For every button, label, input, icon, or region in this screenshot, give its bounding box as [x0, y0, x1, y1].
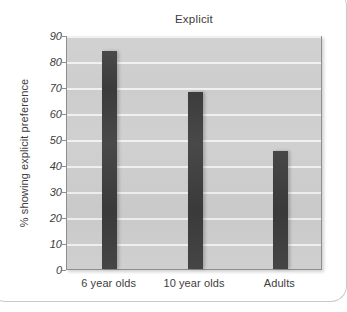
plot-area: [66, 36, 322, 270]
x-axis-category-label: 6 year olds: [81, 277, 136, 289]
bar: [273, 151, 288, 269]
y-axis-tick-label: 20: [22, 212, 62, 224]
y-axis-tick-label: 90: [22, 30, 62, 42]
y-axis-tick-label: 70: [22, 82, 62, 94]
y-axis-tick-label: 30: [22, 186, 62, 198]
y-axis-tick-column: 0102030405060708090: [18, 36, 62, 270]
x-axis-category-label: Adults: [264, 277, 295, 289]
gridline: [67, 36, 321, 38]
y-axis-tick-mark: [62, 270, 66, 271]
chart-title: Explicit: [66, 13, 322, 25]
y-axis-tick-label: 40: [22, 160, 62, 172]
y-axis-tick-label: 80: [22, 56, 62, 68]
bar: [188, 92, 203, 269]
y-axis-tick-label: 60: [22, 108, 62, 120]
bar-chart-figure: Explicit % showing explicit preference 0…: [0, 0, 347, 312]
y-axis-tick-label: 10: [22, 238, 62, 250]
x-axis-category-label: 10 year olds: [163, 277, 224, 289]
bar: [102, 51, 117, 269]
y-axis-tick-label: 0: [22, 264, 62, 276]
x-axis-category-row: 6 year olds10 year oldsAdults: [66, 277, 322, 297]
y-axis-tick-label: 50: [22, 134, 62, 146]
